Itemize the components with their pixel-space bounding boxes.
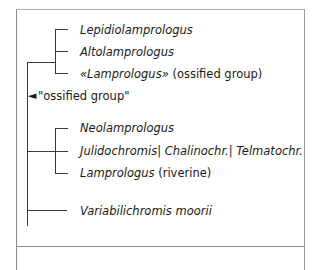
- taxon-name: Variabilichromis moorii: [80, 204, 212, 218]
- taxon-name: Lamprologus: [80, 166, 155, 180]
- taxon-note: (riverine): [155, 166, 212, 180]
- taxon-name: Julidochromis| Chalinochr.| Telmatochr.: [80, 144, 303, 158]
- clade-b-branch-3: [55, 173, 68, 174]
- arrow-left-icon: ◄: [28, 89, 36, 103]
- taxon-name: Lepidiolamprologus: [80, 23, 193, 37]
- taxon-label: Neolamprologus: [80, 121, 174, 135]
- ossified-group-marker: "ossified group": [38, 89, 129, 103]
- divider: [16, 246, 304, 247]
- taxon-label: «Lamprologus» (ossified group): [80, 67, 262, 81]
- taxon-name: Altolamprologus: [80, 45, 174, 59]
- taxon-name: «Lamprologus»: [80, 67, 169, 81]
- taxon-note: (ossified group): [169, 67, 263, 81]
- taxon-label: Altolamprologus: [80, 45, 174, 59]
- taxon-label: Lamprologus (riverine): [80, 166, 211, 180]
- clade-a-branch-3: [55, 73, 68, 74]
- taxon-name: Neolamprologus: [80, 121, 174, 135]
- trunk-to-clade-b: [27, 151, 55, 152]
- trunk-to-outgroup: [27, 210, 67, 211]
- clade-a-branch-1: [55, 29, 68, 30]
- taxon-label: Julidochromis| Chalinochr.| Telmatochr.: [80, 144, 303, 158]
- trunk-to-clade-a: [27, 62, 55, 63]
- tree-trunk: [27, 62, 28, 226]
- taxon-label: Lepidiolamprologus: [80, 23, 193, 37]
- outgroup-label: Variabilichromis moorii: [80, 204, 212, 218]
- clade-b-branch-2: [55, 151, 68, 152]
- clade-a-branch-2: [55, 51, 68, 52]
- clade-b-branch-1: [55, 128, 68, 129]
